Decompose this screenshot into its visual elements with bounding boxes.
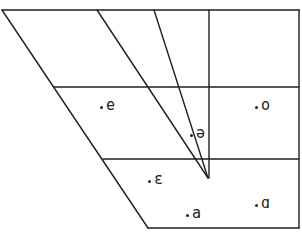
vowel-dot (255, 106, 258, 109)
vowel-symbol: o (261, 96, 270, 114)
vowel-symbol: e (106, 96, 115, 114)
vowel-script-a: ɑ (255, 196, 270, 211)
vowel-symbol: ɑ (261, 194, 270, 212)
vowel-symbol: a (192, 204, 201, 222)
vowel-dot (100, 106, 103, 109)
vowel-schwa: ə (190, 126, 205, 141)
vowel-symbol: ə (196, 124, 205, 142)
front-slant-edge (2, 10, 148, 228)
vowel-dot (148, 180, 151, 183)
vowel-epsilon: ε (148, 172, 163, 187)
converging-line-1 (97, 10, 208, 178)
vowel-o: o (255, 98, 270, 113)
vowel-dot (186, 214, 189, 217)
vowel-e: e (100, 98, 115, 113)
vowel-dot (255, 204, 258, 207)
vowel-a: a (186, 206, 201, 221)
vowel-chart: e o ə ε a ɑ (0, 0, 302, 241)
vowel-dot (190, 134, 193, 137)
vowel-symbol: ε (154, 170, 163, 188)
converging-line-2 (154, 10, 208, 178)
